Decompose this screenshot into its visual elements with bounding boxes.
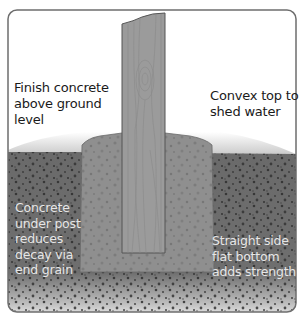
label-line: adds strength (212, 264, 296, 280)
label-line: above ground (14, 96, 109, 112)
label-straight-side: Straight side flat bottom adds strength (212, 233, 296, 280)
label-line: flat bottom (212, 249, 296, 265)
label-convex-top: Convex top to shed water (210, 88, 298, 120)
label-line: Convex top to (210, 88, 298, 104)
label-concrete-under-post: Concrete under post reduces decay via en… (15, 200, 81, 278)
label-finish-concrete: Finish concrete above ground level (14, 80, 109, 128)
label-line: decay via (15, 247, 81, 263)
label-line: shed water (210, 104, 298, 120)
label-line: reduces (15, 231, 81, 247)
label-line: level (14, 112, 109, 128)
label-line: Finish concrete (14, 80, 109, 96)
label-line: Concrete (15, 200, 81, 216)
label-line: end grain (15, 262, 81, 278)
label-line: Straight side (212, 233, 296, 249)
wooden-post (122, 13, 165, 253)
label-line: under post (15, 216, 81, 232)
